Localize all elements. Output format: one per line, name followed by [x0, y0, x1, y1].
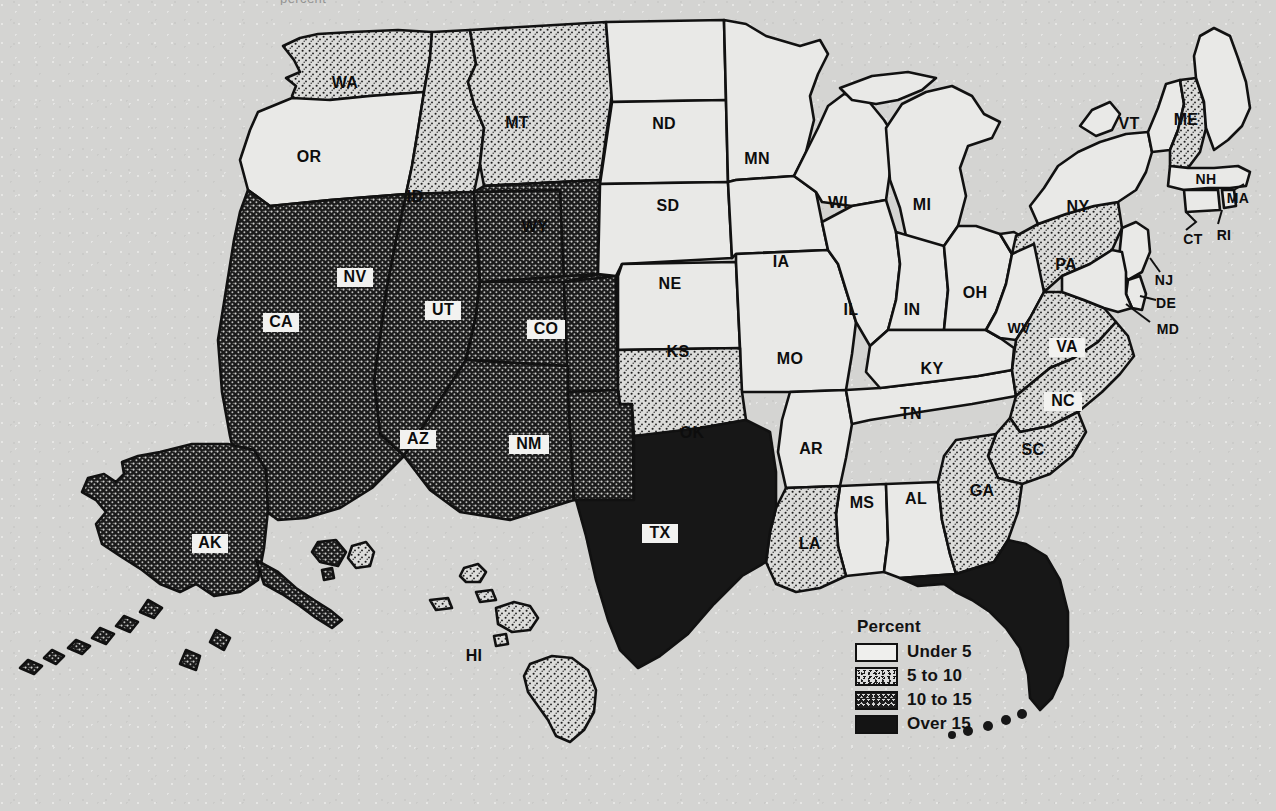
legend-swatch-over15	[855, 715, 898, 734]
state-label-MN: MN	[744, 150, 769, 167]
hawaii-bigisland[interactable]	[524, 656, 596, 742]
state-label-NM: NM	[516, 435, 541, 452]
state-MO[interactable]	[736, 250, 856, 392]
hawaii-oahu[interactable]	[460, 564, 486, 582]
legend-item-10to15[interactable]: 10 to 15	[855, 690, 972, 710]
state-label-ND: ND	[652, 115, 676, 132]
state-label-IL: IL	[844, 301, 859, 318]
state-label-DE: DE	[1156, 295, 1176, 311]
state-label-OK: OK	[680, 424, 705, 441]
state-label-IN: IN	[904, 301, 921, 318]
state-CT[interactable]	[1184, 190, 1220, 212]
legend-title: Percent	[857, 617, 972, 637]
state-NM[interactable]	[568, 390, 634, 500]
state-CO-main[interactable]	[564, 276, 618, 392]
state-label-RI: RI	[1217, 227, 1232, 243]
legend-label-under5: Under 5	[907, 642, 972, 662]
state-label-KY: KY	[921, 360, 944, 377]
legend-swatch-5to10	[855, 667, 898, 686]
state-label-NC: NC	[1051, 392, 1075, 409]
legend-swatch-10to15	[855, 691, 898, 710]
state-label-AK: AK	[198, 534, 222, 551]
state-label-WA: WA	[332, 74, 359, 91]
hawaii-molokai[interactable]	[430, 598, 452, 610]
state-label-MA: MA	[1227, 190, 1249, 206]
hawaii-lanai[interactable]	[476, 590, 496, 602]
state-MT[interactable]	[468, 22, 612, 186]
state-label-PA: PA	[1055, 256, 1077, 273]
state-label-AZ: AZ	[407, 430, 429, 447]
state-label-SC: SC	[1022, 441, 1045, 458]
state-label-VA: VA	[1056, 338, 1078, 355]
state-label-OH: OH	[963, 284, 988, 301]
us-choropleth-map: CA NV UT CO AZ NM TX AK VA NC WA OR ID M…	[0, 0, 1276, 811]
state-label-AR: AR	[799, 440, 823, 457]
state-label-VT: VT	[1118, 115, 1139, 132]
state-AR[interactable]	[778, 390, 852, 488]
alaska-aleutians[interactable]	[20, 600, 162, 674]
state-AK[interactable]	[82, 444, 268, 596]
state-label-ID: ID	[407, 188, 424, 205]
map-canvas: CA NV UT CO AZ NM TX AK VA NC WA OR ID M…	[0, 0, 1276, 811]
state-label-CO: CO	[534, 320, 559, 337]
hawaii-kahoolawe[interactable]	[494, 634, 508, 646]
state-label-MS: MS	[850, 494, 875, 511]
state-label-LA: LA	[799, 535, 821, 552]
state-label-MD: MD	[1157, 321, 1179, 337]
state-label-UT: UT	[432, 301, 454, 318]
state-label-NH: NH	[1196, 171, 1217, 187]
state-ND[interactable]	[606, 20, 726, 102]
state-label-AL: AL	[905, 490, 927, 507]
legend-label-over15: Over 15	[907, 714, 971, 734]
cropped-header-text: percent	[280, 0, 980, 5]
alaska-kodiak[interactable]	[180, 630, 230, 670]
state-label-ME: ME	[1174, 111, 1199, 128]
legend-label-5to10: 5 to 10	[907, 666, 962, 686]
state-label-HI: HI	[466, 647, 483, 664]
legend-label-10to15: 10 to 15	[907, 690, 972, 710]
alaska-offshore-isle-b[interactable]	[322, 568, 334, 580]
state-label-MT: MT	[505, 114, 529, 131]
legend-item-5to10[interactable]: 5 to 10	[855, 666, 972, 686]
state-label-SD: SD	[657, 197, 680, 214]
state-label-NY: NY	[1067, 198, 1090, 215]
state-label-GA: GA	[970, 482, 995, 499]
state-label-WV: WV	[1007, 320, 1031, 336]
alaska-offshore-isle-a[interactable]	[312, 540, 346, 566]
state-label-WI: WI	[828, 194, 848, 211]
map-legend: Percent Under 5 5 to 10 10 to 15 Over 15	[855, 617, 972, 738]
state-label-CT: CT	[1183, 231, 1202, 247]
state-label-NE: NE	[659, 275, 682, 292]
state-OR[interactable]	[240, 92, 424, 206]
legend-item-over15[interactable]: Over 15	[855, 714, 972, 734]
state-label-OR: OR	[297, 148, 322, 165]
state-label-MO: MO	[777, 350, 803, 367]
state-label-WY: WY	[522, 218, 548, 235]
state-label-CA: CA	[269, 313, 293, 330]
state-label-TN: TN	[900, 405, 922, 422]
state-label-NV: NV	[344, 268, 367, 285]
state-label-MI: MI	[913, 196, 931, 213]
legend-swatch-under5	[855, 643, 898, 662]
state-SD[interactable]	[600, 100, 728, 184]
state-label-NJ: NJ	[1155, 272, 1174, 288]
hawaii-maui[interactable]	[496, 602, 538, 632]
state-label-IA: IA	[773, 253, 790, 270]
hawaii-kauai[interactable]	[348, 542, 374, 568]
state-label-KS: KS	[667, 343, 690, 360]
legend-item-under5[interactable]: Under 5	[855, 642, 972, 662]
state-label-TX: TX	[649, 524, 670, 541]
